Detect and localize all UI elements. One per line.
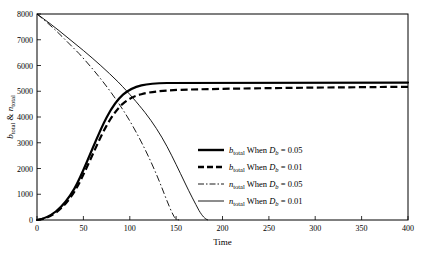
legend-label-b-total-d005: btotal When Db = 0.05 [229, 145, 303, 156]
y-axis-title: btotal & ntotal [5, 95, 16, 139]
x-tick-label: 250 [263, 224, 275, 233]
y-tick-label: 6000 [17, 62, 33, 71]
chart-container: 0 1000 2000 3000 4000 5000 6000 7000 800… [0, 0, 445, 274]
y-tick-label: 1000 [17, 190, 33, 199]
y-tick-label: 4000 [17, 113, 33, 122]
legend-label-n-total-d005: ntotal When Db = 0.05 [229, 179, 303, 190]
y-tick-labels: 0 1000 2000 3000 4000 5000 6000 7000 800… [17, 10, 33, 225]
x-tick-label: 100 [124, 224, 136, 233]
y-tick-label: 7000 [17, 36, 33, 45]
svg-text:btotal & ntotal: btotal & ntotal [5, 95, 16, 139]
y-axis-ticks [37, 14, 41, 220]
legend-label-b-total-d001: btotal When Db = 0.01 [229, 162, 303, 173]
line-chart: 0 1000 2000 3000 4000 5000 6000 7000 800… [0, 0, 445, 274]
x-tick-labels: 0 50 100 150 200 250 300 350 400 [35, 224, 414, 233]
series-b-total-d005 [37, 83, 408, 220]
y-tick-label: 8000 [17, 10, 33, 19]
x-tick-label: 0 [35, 224, 39, 233]
y-tick-label: 5000 [17, 87, 33, 96]
x-axis-title: Time [213, 237, 232, 247]
x-tick-label: 300 [309, 224, 321, 233]
series-n-total-d001 [37, 14, 208, 220]
x-tick-label: 200 [217, 224, 229, 233]
y-tick-label: 0 [29, 216, 33, 225]
x-tick-label: 150 [170, 224, 182, 233]
y-tick-label: 3000 [17, 139, 33, 148]
series-b-total-d001 [37, 87, 408, 220]
series-n-total-d005-curve [37, 14, 180, 220]
y-tick-label: 2000 [17, 165, 33, 174]
legend-label-n-total-d001: ntotal When Db = 0.01 [229, 196, 303, 207]
x-tick-label: 350 [356, 224, 368, 233]
x-tick-label: 400 [402, 224, 414, 233]
chart-legend: btotal When Db = 0.05 btotal When Db = 0… [198, 145, 303, 207]
x-axis-ticks [37, 216, 408, 220]
plot-frame [37, 14, 408, 220]
x-tick-label: 50 [79, 224, 87, 233]
